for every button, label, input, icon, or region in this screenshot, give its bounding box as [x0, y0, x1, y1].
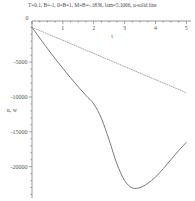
x-tick-label: 0 [26, 15, 29, 21]
series-line-w [32, 27, 186, 93]
y-axis-label: u, w [7, 107, 18, 113]
x-tick-label: 4 [154, 25, 157, 31]
x-axis-ticks [32, 21, 186, 24]
y-tick-label: -15000 [11, 129, 28, 135]
y-tick-label: -10000 [11, 94, 28, 100]
chart-plot-area: 012345 -5000-10000-15000-20000 t u, w [0, 0, 195, 201]
y-axis-tick-labels: -5000-10000-15000-20000 [11, 59, 28, 170]
x-axis-tick-labels: 012345 [26, 15, 188, 32]
figure-container: T=0.1, B=-1, 0=B=1, M=B=-.1836, lam=5.10… [0, 0, 195, 201]
x-tick-label: 1 [61, 25, 64, 31]
y-tick-label: -20000 [11, 164, 28, 170]
x-tick-label: 3 [123, 25, 126, 31]
axes-group [32, 21, 191, 198]
y-tick-label: -5000 [14, 59, 28, 65]
x-tick-label: 5 [185, 25, 188, 31]
series-line-u [32, 27, 186, 188]
x-tick-label: 2 [92, 25, 95, 31]
x-axis-label: t [111, 33, 113, 39]
y-axis-ticks [29, 27, 32, 194]
